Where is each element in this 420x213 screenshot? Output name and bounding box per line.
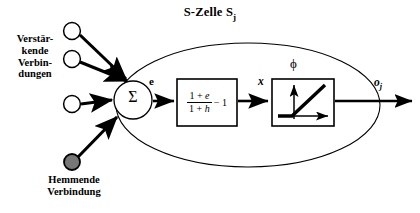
diagram-title-text: S-Zelle S xyxy=(184,5,233,19)
inhibitory-connection-label: Hemmende Verbindung xyxy=(22,174,126,198)
formula-denominator: 1 + h xyxy=(187,102,212,115)
excitatory-input-node-2[interactable] xyxy=(64,51,81,68)
cell-output-subscript: j xyxy=(380,82,382,91)
formula-numerator: 1 + e xyxy=(187,90,211,102)
inhibitory-connection xyxy=(78,117,117,157)
cell-output-label: oj xyxy=(374,76,382,92)
excitatory-input-node-1[interactable] xyxy=(64,23,81,40)
excitatory-input-node-3[interactable] xyxy=(64,96,81,113)
diagram-canvas: S-Zelle Sj Verstär- kende Verbin- dungen… xyxy=(0,0,420,213)
cell-body-ellipse xyxy=(116,43,380,167)
formula-trailing-term: − 1 xyxy=(214,97,227,108)
activation-symbol-label: ϕ xyxy=(290,57,297,72)
transfer-function-formula: 1 + e 1 + h − 1 xyxy=(177,79,237,126)
diagram-title: S-Zelle Sj xyxy=(0,5,420,22)
summation-symbol-label: Σ xyxy=(115,88,151,106)
transfer-output-signal-label: x xyxy=(258,75,264,88)
excitatory-connection-3 xyxy=(81,100,112,104)
sum-output-signal-label: e xyxy=(149,75,154,87)
diagram-title-subscript: j xyxy=(233,12,236,22)
formula-fraction: 1 + e 1 + h xyxy=(187,90,212,115)
excitatory-connections-label: Verstär- kende Verbin- dungen xyxy=(4,33,66,80)
